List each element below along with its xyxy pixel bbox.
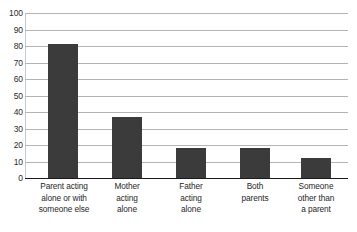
y-tick-label: 80 (0, 42, 23, 51)
bar-parent-acting-alone-or-with-someone-else (48, 44, 78, 178)
bar-both-parents (240, 148, 270, 178)
bar-mother-acting-alone (112, 117, 142, 178)
bar-series (25, 13, 348, 178)
x-label-line: a parent (276, 204, 356, 216)
bar-someone-other-than-a-parent (301, 158, 331, 178)
y-tick-label: 90 (0, 26, 23, 35)
bar-father-acting-alone (176, 148, 206, 178)
y-tick-label: 60 (0, 75, 23, 84)
y-tick-label: 50 (0, 92, 23, 101)
x-label-line: other than (276, 193, 356, 205)
y-tick-label: 20 (0, 141, 23, 150)
bar-chart: 100 90 80 70 60 50 40 30 20 10 0 P (0, 0, 357, 232)
x-label-line: Someone (276, 181, 356, 193)
x-axis-category-labels: Parent acting alone or with someone else… (25, 181, 348, 229)
y-tick-label: 10 (0, 158, 23, 167)
y-tick-label: 30 (0, 125, 23, 134)
y-tick-label: 40 (0, 108, 23, 117)
x-label-line: alone (151, 204, 231, 216)
y-tick-label: 70 (0, 59, 23, 68)
x-label-someone-other-than-a-parent: Someone other than a parent (276, 181, 356, 216)
y-tick-label: 100 (0, 9, 23, 18)
